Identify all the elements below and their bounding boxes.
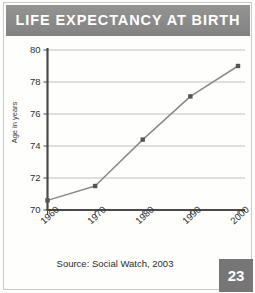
y-axis-title: Age in years [10, 88, 19, 158]
data-point-marker [45, 198, 49, 202]
y-axis-tick-label: 78 [19, 76, 41, 87]
page-number-label: 23 [219, 259, 253, 292]
data-line [48, 66, 239, 200]
data-point-marker [188, 94, 192, 98]
y-axis-tick-label: 72 [19, 172, 41, 183]
page-root: LIFE EXPECTANCY AT BIRTH Age in years 80… [0, 0, 255, 293]
y-axis-tick-label: 74 [19, 140, 41, 151]
page-number-badge: 23 [219, 259, 253, 292]
data-point-marker [141, 137, 145, 141]
y-axis-tick-label: 70 [19, 204, 41, 215]
y-axis-tick-label: 76 [19, 108, 41, 119]
data-point-marker [236, 64, 240, 68]
y-axis-tick-label: 80 [19, 44, 41, 55]
data-point-marker [93, 184, 97, 188]
source-caption: Source: Social Watch, 2003 [30, 258, 200, 269]
line-chart: Age in years 807876747270 19601970198019… [0, 0, 255, 293]
